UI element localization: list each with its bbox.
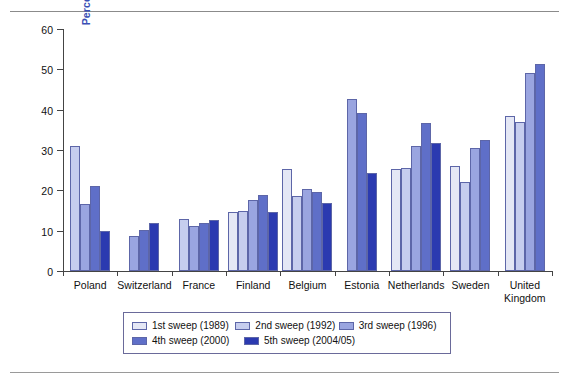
x-tick: [498, 271, 499, 276]
bar: [505, 116, 515, 271]
bar: [292, 196, 302, 271]
bottom-divider: [10, 372, 559, 373]
legend-item[interactable]: 2nd sweep (1992): [235, 320, 338, 331]
bar-group: [226, 29, 280, 271]
bar: [70, 146, 80, 271]
x-axis-label: Sweden: [452, 279, 490, 292]
bar: [401, 168, 411, 271]
legend-label: 4th sweep (2000): [152, 335, 229, 346]
legend-label: 2nd sweep (1992): [255, 320, 335, 331]
bar: [100, 231, 110, 271]
x-tick: [280, 271, 281, 276]
x-tick: [335, 271, 336, 276]
legend-swatch: [244, 337, 259, 345]
legend-item[interactable]: 4th sweep (2000): [132, 335, 244, 346]
bar: [149, 223, 159, 271]
legend-row: 1st sweep (1989)2nd sweep (1992)3rd swee…: [132, 318, 442, 333]
chart-legend: 1st sweep (1989)2nd sweep (1992)3rd swee…: [123, 312, 451, 354]
x-axis-label: France: [182, 279, 215, 292]
x-tick: [552, 271, 553, 276]
bar: [268, 212, 278, 271]
x-axis-label: Estonia: [344, 279, 379, 292]
bar: [367, 173, 377, 271]
bar: [189, 226, 199, 271]
x-axis-label: Poland: [74, 279, 107, 292]
bar: [525, 73, 535, 271]
legend-swatch: [132, 337, 147, 345]
x-axis-label: United Kingdom: [504, 279, 545, 304]
legend-label: 1st sweep (1989): [152, 320, 229, 331]
bar-group: [443, 29, 497, 271]
bar: [248, 200, 258, 271]
bar: [199, 223, 209, 271]
x-axis-label: Switzerland: [117, 279, 171, 292]
bar: [80, 204, 90, 271]
bar: [347, 99, 357, 271]
bar: [431, 143, 441, 271]
bar: [391, 169, 401, 271]
x-tick: [389, 271, 390, 276]
x-tick: [443, 271, 444, 276]
x-tick: [63, 271, 64, 276]
bar: [179, 219, 189, 271]
y-tick-label: 0: [47, 266, 53, 278]
bar: [258, 195, 268, 271]
x-axis: [63, 271, 552, 272]
bar: [209, 220, 219, 271]
bar-chart-plot-area: Percentage favoring imprisonment 0102030…: [63, 29, 552, 271]
bar: [460, 182, 470, 271]
legend-item[interactable]: 3rd sweep (1996): [339, 320, 442, 331]
bar-group: [389, 29, 443, 271]
bar-group: [117, 29, 171, 271]
bar: [322, 203, 332, 271]
y-tick-label: 30: [41, 145, 53, 157]
bar: [302, 189, 312, 271]
x-axis-label: Netherlands: [388, 279, 445, 292]
bar: [450, 166, 460, 271]
bar-group: [172, 29, 226, 271]
legend-item[interactable]: 5th sweep (2004/05): [244, 335, 356, 346]
bar-group: [335, 29, 389, 271]
x-axis-label: Belgium: [289, 279, 327, 292]
bar: [480, 140, 490, 271]
bar: [129, 236, 139, 271]
bar: [411, 146, 421, 271]
legend-item[interactable]: 1st sweep (1989): [132, 320, 235, 331]
legend-swatch: [235, 322, 250, 330]
y-tick-label: 20: [41, 185, 53, 197]
bar-group: [63, 29, 117, 271]
y-tick-label: 40: [41, 105, 53, 117]
x-tick: [226, 271, 227, 276]
legend-row: 4th sweep (2000)5th sweep (2004/05): [132, 333, 442, 348]
bar: [470, 148, 480, 271]
bar: [139, 230, 149, 271]
legend-label: 3rd sweep (1996): [359, 320, 437, 331]
bar: [535, 64, 545, 271]
bar: [282, 169, 292, 271]
legend-swatch: [339, 322, 354, 330]
bar: [515, 122, 525, 271]
y-tick-label: 50: [41, 64, 53, 76]
bar-group: [280, 29, 334, 271]
bar: [421, 123, 431, 271]
bar: [90, 186, 100, 272]
y-tick-label: 10: [41, 226, 53, 238]
bar: [228, 212, 238, 271]
x-axis-label: Finland: [236, 279, 270, 292]
bar: [312, 192, 322, 271]
bar: [238, 211, 248, 271]
y-tick-label: 60: [41, 24, 53, 36]
x-tick: [117, 271, 118, 276]
bar-group: [498, 29, 552, 271]
legend-swatch: [132, 322, 147, 330]
bar: [357, 113, 367, 271]
x-tick: [172, 271, 173, 276]
legend-label: 5th sweep (2004/05): [264, 335, 355, 346]
